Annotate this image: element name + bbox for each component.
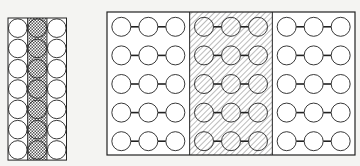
chain-bead-circle: [139, 46, 158, 65]
chain-bead-circle: [139, 103, 158, 122]
left-panel: [8, 18, 67, 160]
chain-bead-circle: [222, 132, 241, 151]
particle-circle: [28, 120, 47, 139]
chain-bead-circle: [277, 75, 296, 94]
chain-bead-circle: [112, 132, 131, 151]
particle-circle: [8, 39, 27, 58]
chain-bead-circle: [249, 132, 268, 151]
chain-bead-circle: [249, 46, 268, 65]
right-panel: [107, 12, 355, 155]
chain-bead-circle: [304, 103, 323, 122]
chain-bead-circle: [331, 17, 350, 36]
particle-circle: [28, 80, 47, 99]
particle-circle: [47, 80, 66, 99]
particle-circle: [8, 59, 27, 78]
chain-bead-circle: [222, 75, 241, 94]
chain-bead-circle: [139, 132, 158, 151]
chain-bead-circle: [331, 103, 350, 122]
chain-bead-circle: [195, 17, 214, 36]
particle-circle: [47, 141, 66, 160]
particle-circle: [28, 59, 47, 78]
chain-bead-circle: [166, 75, 185, 94]
chain-bead-circle: [331, 46, 350, 65]
chain-bead-circle: [277, 132, 296, 151]
chain-bead-circle: [112, 46, 131, 65]
chain-bead-circle: [277, 17, 296, 36]
chain-bead-circle: [139, 17, 158, 36]
chain-bead-circle: [139, 75, 158, 94]
chain-bead-circle: [166, 103, 185, 122]
chain-bead-circle: [166, 17, 185, 36]
chain-bead-circle: [222, 17, 241, 36]
chain-bead-circle: [166, 132, 185, 151]
particle-circle: [28, 100, 47, 119]
chain-bead-circle: [112, 17, 131, 36]
particle-circle: [28, 141, 47, 160]
chain-bead-circle: [331, 75, 350, 94]
chain-bead-circle: [249, 75, 268, 94]
chain-bead-circle: [249, 17, 268, 36]
particle-circle: [47, 39, 66, 58]
chain-bead-circle: [304, 46, 323, 65]
chain-bead-circle: [112, 103, 131, 122]
chain-bead-circle: [195, 132, 214, 151]
chain-bead-circle: [277, 46, 296, 65]
chain-bead-circle: [277, 103, 296, 122]
particle-circle: [8, 100, 27, 119]
particle-circle: [28, 19, 47, 38]
particle-circle: [8, 120, 27, 139]
chain-bead-circle: [195, 103, 214, 122]
chain-bead-circle: [195, 75, 214, 94]
particle-circle: [47, 59, 66, 78]
chain-bead-circle: [304, 17, 323, 36]
chain-bead-circle: [304, 75, 323, 94]
particle-circle: [8, 141, 27, 160]
chain-bead-circle: [331, 132, 350, 151]
particle-circle: [47, 120, 66, 139]
chain-bead-circle: [222, 46, 241, 65]
particle-circle: [47, 19, 66, 38]
particle-arrangement-diagram: [0, 0, 360, 166]
chain-bead-circle: [112, 75, 131, 94]
chain-bead-circle: [222, 103, 241, 122]
particle-circle: [8, 19, 27, 38]
particle-circle: [28, 39, 47, 58]
chain-bead-circle: [195, 46, 214, 65]
particle-circle: [47, 100, 66, 119]
chain-bead-circle: [166, 46, 185, 65]
particle-circle: [8, 80, 27, 99]
chain-bead-circle: [304, 132, 323, 151]
chain-bead-circle: [249, 103, 268, 122]
